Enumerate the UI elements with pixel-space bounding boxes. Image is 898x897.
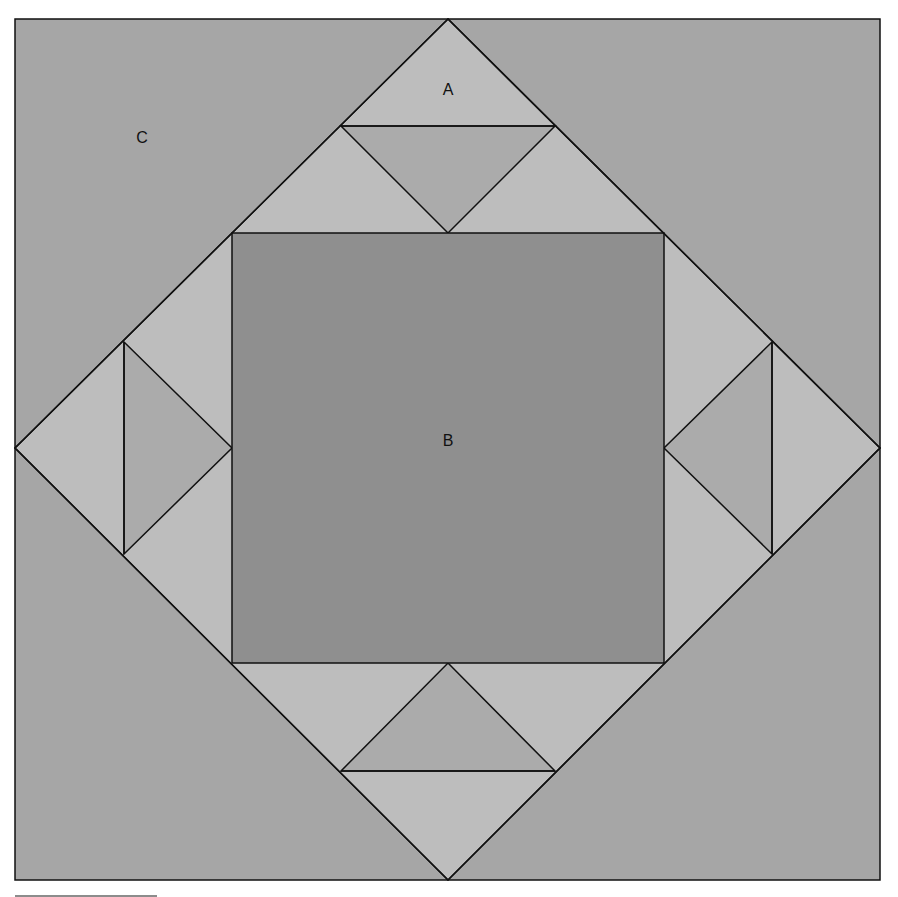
label-b: B xyxy=(443,432,454,449)
label-a: A xyxy=(443,81,454,98)
label-c: C xyxy=(136,129,148,146)
quilt-diagram: A B C xyxy=(0,0,898,897)
